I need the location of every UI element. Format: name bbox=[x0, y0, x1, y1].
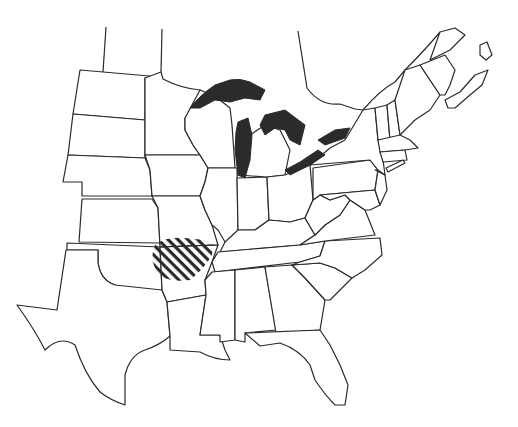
state-iowa bbox=[145, 155, 208, 196]
state-kansas bbox=[79, 199, 160, 243]
state-florida bbox=[245, 330, 348, 405]
state-indiana bbox=[237, 177, 269, 230]
state-south-dakota bbox=[68, 114, 145, 158]
state-nebraska bbox=[63, 155, 152, 196]
outline-map bbox=[0, 0, 518, 427]
gaspe-peninsula bbox=[430, 28, 465, 60]
cape-breton bbox=[480, 42, 492, 60]
state-mississippi bbox=[200, 270, 235, 342]
